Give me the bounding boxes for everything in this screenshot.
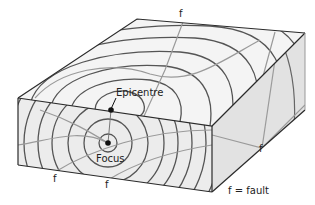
epicentre-label: Epicentre [116, 87, 163, 98]
fault-mark-bottom: f [105, 179, 109, 190]
focus-label: Focus [96, 153, 125, 164]
focus-dot [105, 140, 111, 146]
fault-mark-bottom-left: f [53, 173, 57, 184]
fault-mark-right: f [259, 143, 263, 154]
earthquake-block-diagram: Epicentre Focus f f f f f = fault [0, 0, 315, 205]
legend-fault: f = fault [228, 185, 269, 196]
fault-mark-top: f [179, 8, 183, 19]
